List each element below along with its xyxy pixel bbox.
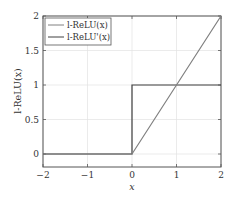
x-axis-label: x bbox=[129, 181, 135, 192]
chart: −2−101200.511.52 x l-ReLU(x) l-ReLU(x) l… bbox=[0, 0, 237, 201]
x-tick-label: 1 bbox=[174, 170, 180, 180]
y-tick-label: 2 bbox=[33, 11, 39, 21]
legend-label-lrelu-derivative: l-ReLU'(x) bbox=[67, 32, 110, 42]
x-tick-label: −2 bbox=[36, 170, 49, 180]
x-tick-label: −1 bbox=[81, 170, 94, 180]
legend: l-ReLU(x) l-ReLU'(x) bbox=[45, 18, 111, 45]
legend-label-lrelu: l-ReLU(x) bbox=[67, 20, 108, 30]
x-tick-label: 2 bbox=[218, 170, 224, 180]
y-tick-label: 1 bbox=[33, 80, 39, 90]
y-axis-label: l-ReLU(x) bbox=[12, 68, 23, 114]
y-tick-label: 0 bbox=[33, 149, 39, 159]
y-tick-label: 1.5 bbox=[25, 46, 40, 56]
y-tick-label: 0.5 bbox=[25, 115, 40, 125]
x-tick-label: 0 bbox=[129, 170, 135, 180]
